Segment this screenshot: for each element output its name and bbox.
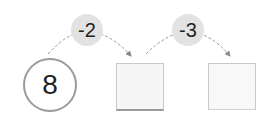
start-value-circle: 8 [23, 58, 77, 112]
operation-bubble-1: -2 [71, 14, 103, 46]
answer-box-2[interactable] [208, 63, 256, 110]
operation-bubble-2: -3 [172, 14, 204, 46]
answer-box-1[interactable] [116, 63, 164, 111]
